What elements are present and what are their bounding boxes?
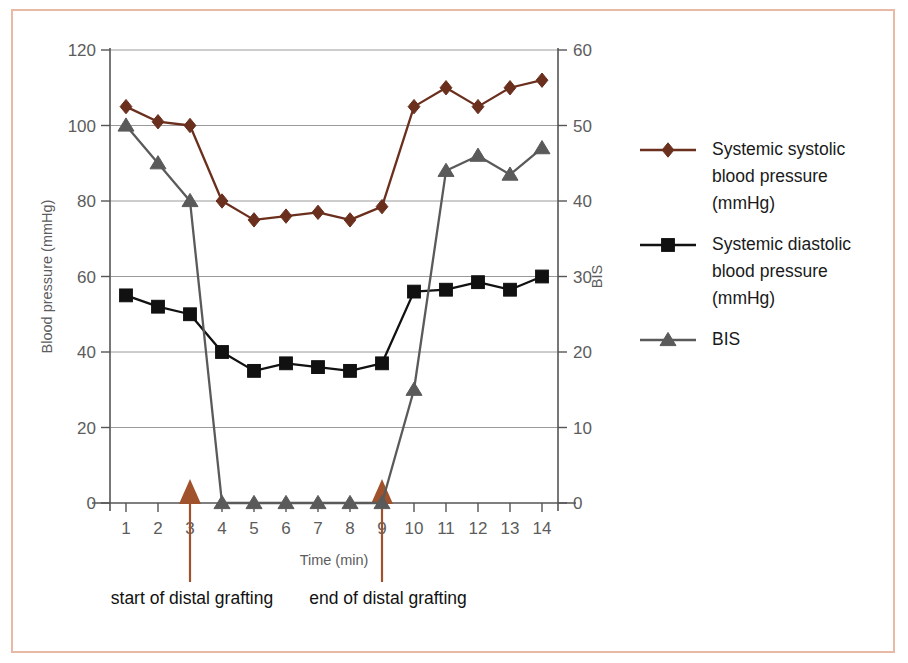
line-chart: 0204060801001200102030405060123456789101…: [0, 0, 908, 663]
data-point-marker: [440, 81, 452, 95]
y-tick-label-left: 120: [68, 41, 96, 60]
data-point-marker: [248, 364, 261, 377]
data-point-marker: [216, 194, 228, 208]
y-tick-label-left: 80: [77, 192, 96, 211]
data-point-marker: [534, 141, 550, 154]
legend-label: Systemic diastolic: [712, 234, 851, 254]
data-point-marker: [438, 163, 454, 176]
data-point-marker: [536, 270, 549, 283]
y-tick-label-left: 20: [77, 419, 96, 438]
data-point-marker: [280, 357, 293, 370]
y-tick-label-right: 60: [573, 41, 592, 60]
x-tick-label: 13: [501, 519, 520, 538]
axis-titles-group: Blood pressure (mmHg)BISTime (min): [39, 200, 605, 568]
y-tick-label-right: 40: [573, 192, 592, 211]
annotation-label: end of distal grafting: [309, 588, 467, 608]
legend-label: Systemic systolic: [712, 139, 845, 159]
legend-label: blood pressure: [712, 166, 828, 186]
data-point-marker: [312, 205, 324, 219]
data-point-marker: [408, 285, 421, 298]
legend-item[interactable]: Systemic systolicblood pressure(mmHg): [640, 139, 845, 213]
data-point-marker: [120, 99, 132, 113]
data-series-group: [118, 73, 550, 509]
y-tick-label-right: 0: [573, 494, 582, 513]
axes-group: [92, 48, 576, 512]
y-tick-label-right: 50: [573, 117, 592, 136]
y-tick-label-right: 20: [573, 343, 592, 362]
data-point-marker: [536, 73, 548, 87]
x-tick-label: 5: [249, 519, 258, 538]
data-point-marker: [216, 346, 229, 359]
data-point-marker: [344, 213, 356, 227]
y-tick-label-left: 40: [77, 343, 96, 362]
y-tick-label-left: 0: [87, 494, 96, 513]
x-tick-label: 12: [469, 519, 488, 538]
data-point-marker: [184, 308, 197, 321]
legend-label: blood pressure: [712, 261, 828, 281]
data-point-marker: [118, 118, 134, 131]
data-point-marker: [120, 289, 133, 302]
x-tick-label: 4: [217, 519, 226, 538]
chart-canvas: 0204060801001200102030405060123456789101…: [0, 0, 908, 663]
data-point-marker: [662, 239, 675, 252]
data-point-marker: [408, 99, 420, 113]
gridlines-group: [110, 50, 558, 428]
legend-item[interactable]: Systemic diastolicblood pressure(mmHg): [640, 234, 851, 308]
data-point-marker: [376, 357, 389, 370]
series-line: [126, 277, 542, 371]
y-tick-label-right: 10: [573, 419, 592, 438]
data-point-marker: [504, 81, 516, 95]
legend-label: (mmHg): [712, 193, 775, 213]
data-point-marker: [472, 276, 485, 289]
x-tick-label: 8: [345, 519, 354, 538]
x-tick-label: 2: [153, 519, 162, 538]
x-tick-label: 10: [405, 519, 424, 538]
series-square: [120, 270, 549, 377]
data-point-marker: [184, 118, 196, 132]
data-point-marker: [662, 143, 674, 157]
legend-label: (mmHg): [712, 288, 775, 308]
data-point-marker: [152, 300, 165, 313]
data-point-marker: [440, 283, 453, 296]
legend-label: BIS: [712, 329, 740, 349]
data-point-marker: [470, 148, 486, 161]
legend-group: Systemic systolicblood pressure(mmHg)Sys…: [640, 139, 851, 349]
data-point-marker: [376, 199, 388, 213]
data-point-marker: [472, 99, 484, 113]
data-point-marker: [280, 209, 292, 223]
y-axis-title: Blood pressure (mmHg): [39, 200, 55, 354]
annotations-group: start of distal graftingend of distal gr…: [111, 479, 467, 608]
data-point-marker: [152, 115, 164, 129]
x-tick-label: 7: [313, 519, 322, 538]
legend-item[interactable]: BIS: [640, 329, 740, 349]
data-point-marker: [406, 382, 422, 395]
annotation-arrow-head: [179, 479, 201, 504]
data-point-marker: [312, 361, 325, 374]
x-axis-title: Time (min): [300, 552, 369, 568]
data-point-marker: [248, 213, 260, 227]
x-tick-label: 6: [281, 519, 290, 538]
y-tick-label-left: 60: [77, 268, 96, 287]
x-tick-label: 11: [437, 519, 455, 538]
data-point-marker: [504, 283, 517, 296]
figure-root: 0204060801001200102030405060123456789101…: [0, 0, 908, 663]
y2-axis-title: BIS: [589, 265, 605, 288]
x-tick-label: 14: [533, 519, 552, 538]
x-tick-label: 1: [121, 519, 130, 538]
y-tick-label-left: 100: [68, 117, 96, 136]
data-point-marker: [344, 364, 357, 377]
annotation-label: start of distal grafting: [111, 588, 273, 608]
